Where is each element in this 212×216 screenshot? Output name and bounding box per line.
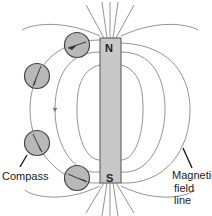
bar-magnet — [100, 38, 121, 183]
north-pole-label: N — [105, 42, 113, 54]
field-line-label-1: Magnetic — [172, 169, 212, 181]
south-pole-label: S — [106, 172, 113, 184]
field-line-label-2: field line — [174, 182, 212, 206]
compass-label: Compass — [2, 170, 48, 182]
magnetic-field-diagram: N S Compass Magnetic field line — [0, 0, 212, 216]
